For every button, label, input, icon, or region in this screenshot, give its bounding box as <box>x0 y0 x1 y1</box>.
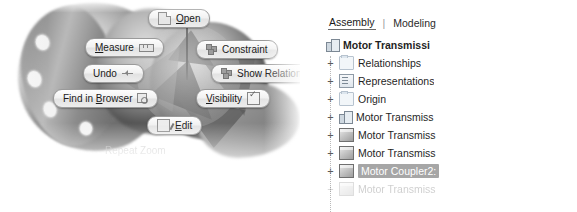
tree-row-motor-transmission-4[interactable]: Motor Transmiss <box>326 180 576 198</box>
tree-item-label: Representations <box>358 75 434 87</box>
relationships-icon <box>221 68 232 79</box>
tree-row-representations[interactable]: Representations <box>326 72 576 90</box>
representations-icon <box>339 74 354 88</box>
checkbox-checked-icon[interactable] <box>247 92 260 105</box>
marking-menu-item-label: Undo <box>93 69 117 79</box>
marking-menu-item-visibility[interactable]: Visibility <box>196 89 270 108</box>
marking-menu-item-edit[interactable]: Edit <box>147 116 202 135</box>
marking-menu-item-repeat-zoom[interactable]: Repeat Zoom <box>96 142 175 159</box>
expander-icon[interactable] <box>326 149 335 158</box>
part-cube-icon <box>339 164 354 178</box>
model-tree: Motor Transmissi Relationships Represent… <box>326 36 576 198</box>
tab-assembly[interactable]: Assembly <box>328 16 376 30</box>
undo-arrow-icon <box>122 69 134 79</box>
folder-icon <box>339 56 354 70</box>
tab-modeling[interactable]: Modeling <box>392 17 437 30</box>
edit-icon <box>157 119 170 132</box>
assembly-icon <box>339 111 352 123</box>
tree-item-label: Motor Coupler2: <box>358 164 439 178</box>
tree-row-root[interactable]: Motor Transmissi <box>326 36 576 54</box>
expander-icon[interactable] <box>326 167 335 176</box>
tree-item-label: Motor Transmiss <box>358 147 436 159</box>
screenshot-root: Open Measure Constraint Undo Show Relati… <box>0 0 577 212</box>
tree-row-motor-transmission-3[interactable]: Motor Transmiss <box>326 144 576 162</box>
expander-icon[interactable] <box>326 131 335 140</box>
marking-menu-item-label: Open <box>176 14 200 24</box>
marking-menu-item-label: Find in Browser <box>63 94 132 104</box>
expander-icon[interactable] <box>326 185 335 194</box>
tree-row-motor-transmission-2[interactable]: Motor Transmiss <box>326 126 576 144</box>
browser-tab-bar: Assembly | Modeling <box>328 16 437 30</box>
tree-item-label: Motor Transmiss <box>358 129 436 141</box>
marking-menu-item-label: Visibility <box>206 94 242 104</box>
marking-menu-item-undo[interactable]: Undo <box>83 64 144 83</box>
tree-item-label: Origin <box>358 93 386 105</box>
assembly-icon <box>326 39 339 51</box>
model-browser-panel: Assembly | Modeling Motor Transmissi Rel… <box>300 0 577 212</box>
marking-menu-item-constraint[interactable]: Constraint <box>196 40 278 59</box>
marking-menu-item-label: Show Relationships <box>237 69 300 79</box>
part-cube-icon <box>339 146 354 160</box>
tree-row-motor-coupler2[interactable]: Motor Coupler2: <box>326 162 576 180</box>
expander-icon[interactable] <box>326 59 335 68</box>
marking-menu-item-label: Constraint <box>222 45 268 55</box>
marking-menu-drag-line <box>186 22 188 80</box>
folder-icon <box>339 92 354 106</box>
marking-menu-item-open[interactable]: Open <box>148 9 210 28</box>
marking-menu-item-show-relationships[interactable]: Show Relationships <box>211 64 300 83</box>
3d-viewport[interactable]: Open Measure Constraint Undo Show Relati… <box>0 0 300 172</box>
expander-icon[interactable] <box>326 95 335 104</box>
expander-icon[interactable] <box>326 113 335 122</box>
tree-item-label: Relationships <box>358 57 421 69</box>
marking-menu-item-measure[interactable]: Measure <box>85 38 164 57</box>
part-cube-icon <box>339 182 354 196</box>
marking-menu-item-label: Measure <box>95 43 134 53</box>
tree-row-origin[interactable]: Origin <box>326 90 576 108</box>
marking-menu-item-label: Edit <box>175 121 192 131</box>
ruler-icon <box>139 44 154 52</box>
part-cube-icon <box>339 128 354 142</box>
tab-separator: | <box>383 17 386 29</box>
tree-item-label: Motor Transmiss <box>356 111 434 123</box>
tree-row-motor-transmission-1[interactable]: Motor Transmiss <box>326 108 576 126</box>
marking-menu-item-find-in-browser[interactable]: Find in Browser <box>53 89 158 108</box>
constraint-icon <box>206 44 217 55</box>
tree-row-relationships[interactable]: Relationships <box>326 54 576 72</box>
marking-menu-item-label: Repeat Zoom <box>105 146 166 156</box>
find-magnifier-icon <box>137 93 148 104</box>
open-document-icon <box>158 12 171 25</box>
tree-item-label: Motor Transmissi <box>343 39 430 51</box>
expander-icon[interactable] <box>326 77 335 86</box>
tree-item-label: Motor Transmiss <box>358 183 436 195</box>
